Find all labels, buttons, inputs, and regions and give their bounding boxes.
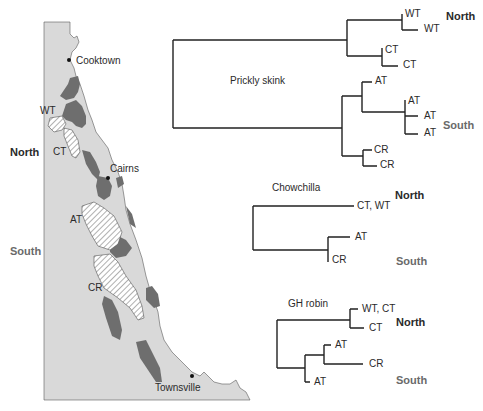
leaf-label: CR — [380, 160, 394, 170]
tree-title-chowchilla: Chowchilla — [272, 183, 320, 193]
leaf-label: CR — [374, 145, 388, 155]
group-label-south: South — [396, 375, 427, 386]
cairns-dot — [106, 176, 110, 180]
map-north-label: North — [10, 147, 39, 158]
leaf-label: CT — [403, 60, 416, 70]
leaf-label: AT — [408, 96, 420, 106]
group-label-south: South — [396, 256, 427, 267]
leaf-label: CT — [369, 323, 382, 333]
leaf-label: CR — [369, 359, 383, 369]
leaf-label: CR — [332, 255, 346, 265]
leaf-label: CT — [385, 45, 398, 55]
town-label-townsville: Townsville — [155, 383, 201, 393]
leaf-label: AT — [424, 128, 436, 138]
tree-title-prickly-skink: Prickly skink — [230, 76, 285, 86]
leaf-label: AT — [375, 76, 387, 86]
leaf-label: AT — [424, 111, 436, 121]
group-label-south: South — [443, 120, 474, 131]
group-label-north: North — [446, 11, 475, 22]
region-label-wt: WT — [40, 106, 56, 116]
leaf-label: AT — [314, 377, 326, 387]
tree-title-gh-robin: GH robin — [288, 299, 328, 309]
group-label-north: North — [395, 190, 424, 201]
region-label-cr: CR — [88, 283, 102, 293]
region-label-at: AT — [70, 215, 82, 225]
town-label-cairns: Cairns — [110, 164, 139, 174]
figure-canvas: Cooktown Cairns Townsville WT CT AT CR N… — [0, 0, 483, 411]
map-south-label: South — [10, 246, 41, 257]
leaf-label: AT — [335, 340, 347, 350]
leaf-label: WT — [424, 24, 440, 34]
town-label-cooktown: Cooktown — [76, 56, 120, 66]
tree-gh-robin — [277, 309, 364, 382]
cooktown-dot — [67, 58, 71, 62]
leaf-label: CT, WT — [357, 201, 390, 211]
region-label-ct: CT — [53, 147, 66, 157]
leaf-label: WT, CT — [362, 304, 395, 314]
townsville-dot — [190, 374, 194, 378]
group-label-north: North — [396, 317, 425, 328]
leaf-label: AT — [355, 232, 367, 242]
leaf-label: WT — [405, 9, 421, 19]
